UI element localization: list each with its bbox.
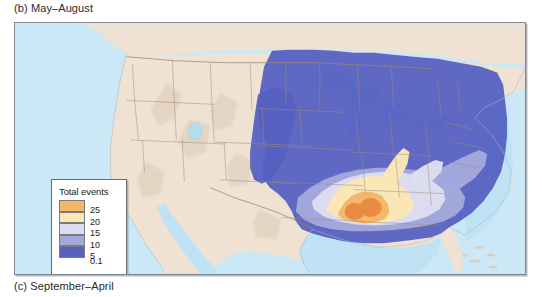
- legend-row-0point1: 0.1: [59, 258, 120, 270]
- legend-swatch-15: [59, 223, 85, 235]
- legend-swatch-10: [59, 235, 85, 247]
- contour-level-25-east-lobe: [360, 198, 382, 217]
- legend-label-20: 20: [90, 217, 100, 226]
- legend-title: Total events: [59, 186, 120, 197]
- legend-label-15: 15: [90, 229, 100, 238]
- legend-label-0point1: 0.1: [90, 257, 103, 266]
- map-legend[interactable]: Total events 25 20 15 10 5: [51, 179, 127, 275]
- figure-caption-top: (b) May–August: [14, 2, 93, 14]
- legend-label-10: 10: [90, 240, 100, 249]
- legend-swatch-20: [59, 212, 85, 224]
- legend-entry-list: 25 20 15 10 5 0.1: [59, 200, 120, 269]
- figure-caption-bottom: (c) September–April: [14, 280, 114, 292]
- legend-swatch-25: [59, 200, 85, 212]
- legend-row-25: 25: [59, 200, 120, 212]
- legend-label-25: 25: [90, 206, 100, 215]
- map-panel[interactable]: Total events 25 20 15 10 5: [14, 22, 526, 275]
- legend-swatch-5: [59, 246, 85, 258]
